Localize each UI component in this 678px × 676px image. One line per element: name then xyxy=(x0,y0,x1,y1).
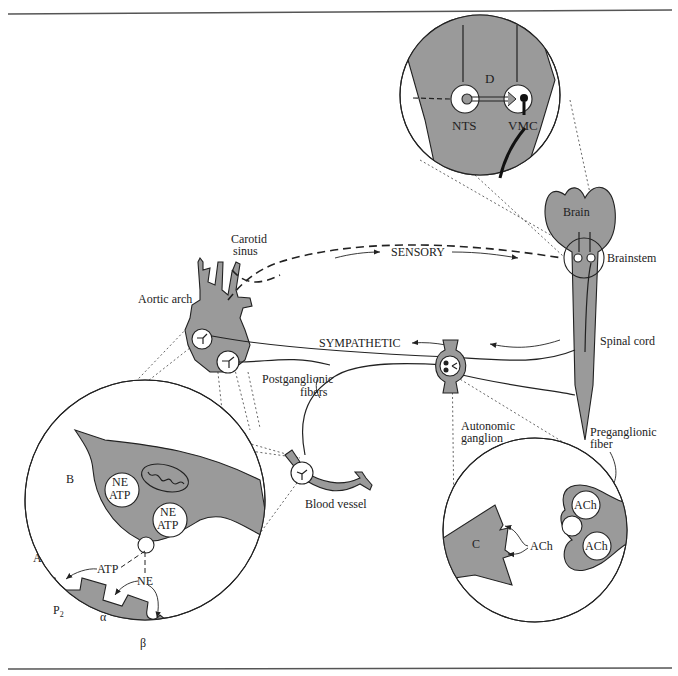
heart: Carotid sinus Aortic arch xyxy=(138,232,267,373)
spinal-cord-label: Spinal cord xyxy=(600,334,655,348)
sensory-pathway: SENSORY xyxy=(228,245,562,300)
panel-ab-neuroeffector-junction: NE ATP NE ATP B A ATP NE P2 α β xyxy=(25,380,270,650)
nts-label: NTS xyxy=(452,118,477,133)
alpha-receptor-label: α xyxy=(100,610,107,624)
p2-receptor-label: P2 xyxy=(53,603,64,619)
sensory-label: SENSORY xyxy=(391,245,445,259)
vesicle-ach-label: ACh xyxy=(574,498,597,512)
vesicle-ne-label-2: NE xyxy=(160,505,176,519)
sympathetic-label: SYMPATHETIC xyxy=(319,336,401,350)
autonomic-ganglion-label-2: ganglion xyxy=(461,431,503,445)
vesicle-atp-label: ATP xyxy=(109,488,131,502)
aortic-arch-label: Aortic arch xyxy=(138,292,192,306)
brain-and-spinal-cord: Brain Brainstem Spinal cord xyxy=(545,187,657,440)
panel-d-label: D xyxy=(485,71,494,86)
panel-c-label: C xyxy=(472,537,480,551)
ne-release-label: NE xyxy=(137,574,153,588)
vesicle-atp-label-2: ATP xyxy=(157,518,179,532)
atp-release-label: ATP xyxy=(97,562,119,576)
blood-vessel-label: Blood vessel xyxy=(305,497,367,511)
postganglionic-label: Postganglionic xyxy=(262,372,333,386)
top-rule xyxy=(8,10,672,14)
panel-c-ganglionic-synapse: ACh ACh ACh C xyxy=(440,438,640,622)
vmc-label: VMC xyxy=(508,118,538,133)
brainstem-label: Brainstem xyxy=(607,251,657,265)
postganglionic-label-2: fibers xyxy=(300,385,328,399)
sympathetic-pathway: SYMPATHETIC Postganglionic fibers xyxy=(212,336,575,455)
vesicle-ach-label-2: ACh xyxy=(585,539,608,553)
panel-d-brainstem-detail: D NTS VMC xyxy=(400,0,560,190)
autonomic-reflex-diagram: D NTS VMC Brain Brainstem Spinal cord Ca… xyxy=(0,0,678,676)
beta-receptor-label: β xyxy=(140,636,146,650)
panel-b-label: B xyxy=(66,472,74,486)
vesicle-ne-label: NE xyxy=(112,475,128,489)
brain-label: Brain xyxy=(563,205,590,219)
ach-release-label: ACh xyxy=(530,539,553,553)
blood-vessel: Blood vessel xyxy=(285,450,372,511)
carotid-sinus-label-2: sinus xyxy=(233,244,258,258)
bottom-rule xyxy=(8,668,672,669)
panel-a-label: A xyxy=(33,551,42,565)
preganglionic-label-2: fiber xyxy=(590,437,613,451)
